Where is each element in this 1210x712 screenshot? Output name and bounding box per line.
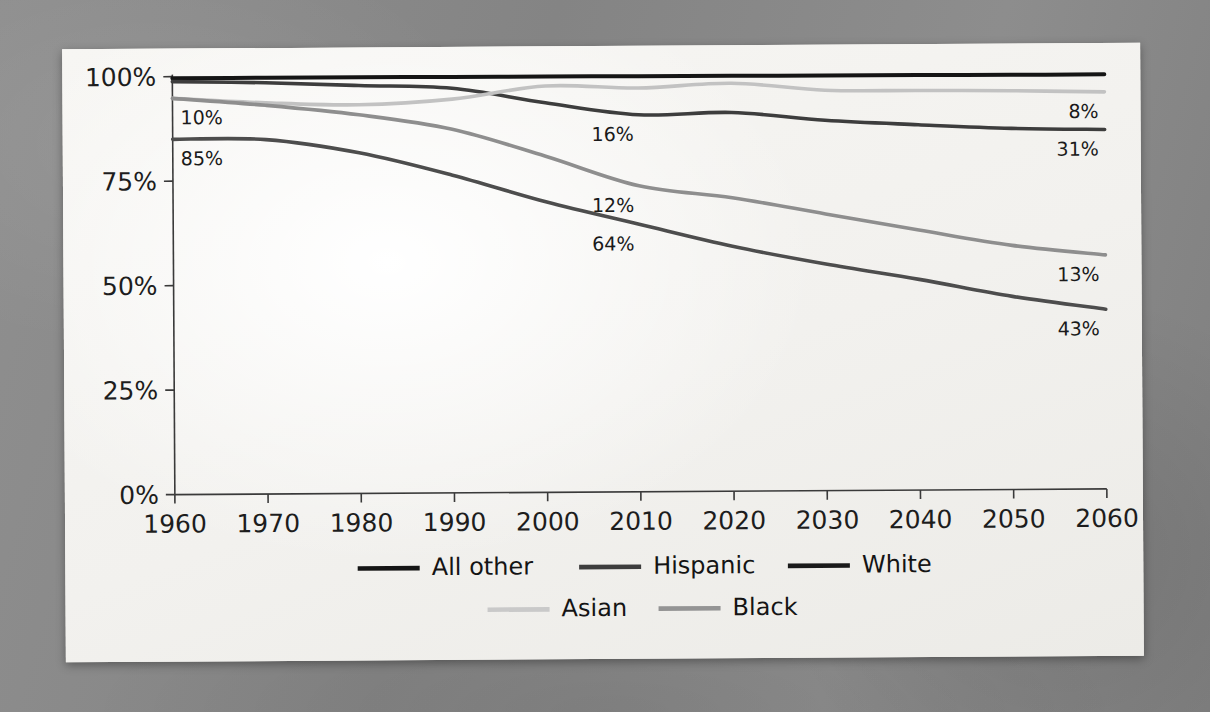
- legend-label: Black: [732, 593, 797, 621]
- series-line-black: [172, 93, 1105, 261]
- annotation-43pct: 43%: [1058, 317, 1100, 339]
- y-tick-label: 75%: [101, 167, 157, 196]
- x-tick-label: 2040: [889, 505, 953, 534]
- y-tick-label: 100%: [85, 63, 157, 92]
- chart-paper: 0%25%50%75%100% 196019701980199020002010…: [62, 43, 1144, 663]
- x-tick-label: 2000: [516, 507, 580, 536]
- y-axis-tick-labels: 0%25%50%75%100%: [85, 63, 159, 510]
- annotation-16pct: 16%: [591, 123, 633, 145]
- x-tick-label: 2030: [796, 505, 860, 534]
- annotation-10pct: 10%: [180, 106, 222, 128]
- series-line-white: [173, 133, 1106, 315]
- legend-label: Asian: [561, 594, 627, 622]
- legend-item-white[interactable]: White: [788, 550, 932, 579]
- line-chart: 0%25%50%75%100% 196019701980199020002010…: [62, 43, 1144, 663]
- legend-item-hispanic[interactable]: Hispanic: [579, 551, 755, 580]
- legend-label: Hispanic: [653, 551, 755, 580]
- x-tick-label: 2010: [609, 507, 673, 536]
- legend-label: All other: [432, 552, 534, 581]
- y-tick-label: 25%: [103, 376, 159, 405]
- series-line-all-other: [172, 73, 1104, 80]
- x-tick-label: 2020: [702, 506, 766, 535]
- annotation-8pct: 8%: [1068, 100, 1098, 122]
- data-annotations: 10%85%16%12%64%8%31%13%43%: [180, 100, 1099, 345]
- legend-label: White: [862, 550, 932, 578]
- x-tick-label: 1970: [236, 509, 300, 538]
- chart-legend: All otherHispanicWhiteAsianBlack: [358, 550, 932, 624]
- annotation-64pct: 64%: [592, 232, 634, 254]
- series-lines: [172, 73, 1105, 315]
- annotation-31pct: 31%: [1056, 137, 1098, 159]
- legend-item-black[interactable]: Black: [658, 593, 797, 622]
- legend-item-all-other[interactable]: All other: [358, 552, 534, 581]
- annotation-12pct: 12%: [592, 194, 634, 216]
- x-tick-label: 1960: [143, 509, 207, 538]
- x-tick-label: 2060: [1075, 504, 1139, 533]
- chart-figure: 0%25%50%75%100% 196019701980199020002010…: [62, 43, 1144, 663]
- y-tick-label: 0%: [119, 481, 159, 510]
- x-axis-tick-labels: 1960197019801990200020102020203020402050…: [143, 504, 1139, 539]
- annotation-85pct: 85%: [181, 147, 223, 169]
- y-tick-label: 50%: [102, 272, 158, 301]
- legend-item-asian[interactable]: Asian: [487, 594, 627, 623]
- x-tick-label: 2050: [982, 504, 1046, 533]
- x-tick-label: 1990: [423, 508, 487, 537]
- annotation-13pct: 13%: [1057, 263, 1099, 285]
- x-tick-label: 1980: [330, 508, 394, 537]
